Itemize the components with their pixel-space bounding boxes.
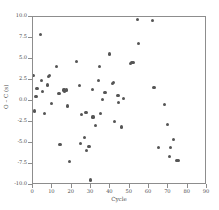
data-point <box>65 88 68 91</box>
data-point <box>153 86 156 89</box>
data-point <box>50 102 53 105</box>
y-tick-label: -5.0 <box>1 139 27 144</box>
data-point <box>87 145 90 148</box>
data-point <box>68 160 71 163</box>
data-point <box>172 138 175 141</box>
data-point <box>39 33 42 36</box>
data-point <box>83 136 86 139</box>
data-point <box>34 95 37 98</box>
data-point <box>84 111 87 114</box>
data-point <box>75 60 78 63</box>
x-tick-label: 90 <box>196 189 216 194</box>
y-tick-label: 10.0 <box>1 13 27 18</box>
data-point <box>91 88 94 91</box>
data-point <box>163 103 166 106</box>
data-point <box>66 104 69 107</box>
data-point <box>120 125 123 128</box>
data-point <box>137 42 140 45</box>
y-axis-title: O – C (s) <box>4 62 10 132</box>
x-tick-label: 30 <box>80 189 100 194</box>
data-point <box>99 112 102 115</box>
data-point <box>32 74 35 77</box>
data-point <box>97 79 100 82</box>
data-point <box>94 124 97 127</box>
data-point <box>33 109 36 112</box>
data-point <box>43 112 46 115</box>
data-point <box>166 123 169 126</box>
scatter-plot-figure: -10.0-7.5-5.0-2.50.02.55.07.510.0 010203… <box>0 0 219 210</box>
data-point <box>58 143 61 146</box>
x-tick-label: 60 <box>138 189 158 194</box>
data-point <box>176 159 179 162</box>
x-tick-label: 0 <box>22 189 42 194</box>
y-tick-label: -7.5 <box>1 160 27 165</box>
data-point <box>35 87 38 90</box>
data-point <box>136 18 139 21</box>
x-tick-label: 70 <box>157 189 177 194</box>
data-point <box>57 92 60 95</box>
data-point <box>41 90 44 93</box>
data-point <box>169 146 172 149</box>
x-tick-label: 80 <box>177 189 197 194</box>
data-point <box>80 113 83 116</box>
data-point <box>112 81 115 84</box>
data-point <box>98 65 101 68</box>
data-point <box>113 120 116 123</box>
x-axis-title: Cycle <box>32 197 206 203</box>
data-point <box>122 97 125 100</box>
data-point <box>132 61 135 64</box>
y-tick-label: -10.0 <box>1 181 27 186</box>
data-point <box>157 146 160 149</box>
data-point <box>108 52 111 55</box>
x-tick-label: 40 <box>99 189 119 194</box>
data-point <box>103 91 106 94</box>
data-point <box>101 98 104 101</box>
data-point <box>91 115 94 118</box>
data-point <box>48 74 51 77</box>
data-point <box>168 155 171 158</box>
x-tick-label: 10 <box>41 189 61 194</box>
x-tick-label: 20 <box>61 189 81 194</box>
data-point <box>78 84 81 87</box>
data-point <box>151 19 154 22</box>
data-point <box>40 79 43 82</box>
data-point <box>117 101 120 104</box>
y-tick-label: 7.5 <box>1 34 27 39</box>
data-point <box>79 142 82 145</box>
data-point <box>85 149 88 152</box>
x-tick-label: 50 <box>119 189 139 194</box>
data-point <box>55 65 58 68</box>
data-point <box>116 94 119 97</box>
data-point <box>46 83 49 86</box>
y-tick-label: 5.0 <box>1 55 27 60</box>
plot-area <box>32 16 206 184</box>
data-point <box>89 178 92 181</box>
